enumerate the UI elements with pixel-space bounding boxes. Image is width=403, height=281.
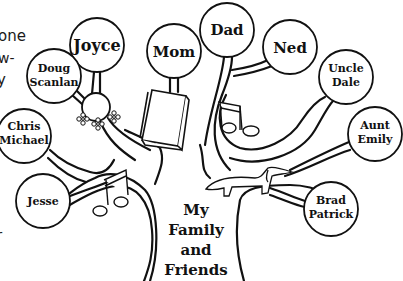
svg-text:Dad: Dad	[210, 21, 244, 39]
svg-text:Dale: Dale	[332, 76, 360, 89]
book-icon	[140, 90, 189, 150]
svg-text:Michael: Michael	[0, 134, 49, 147]
svg-text:My: My	[183, 201, 210, 219]
person-node-mom: Mom	[147, 24, 201, 78]
svg-text:Uncle: Uncle	[328, 62, 363, 75]
svg-text:Jesse: Jesse	[26, 195, 59, 208]
svg-text:Doug: Doug	[38, 62, 71, 75]
person-node-brad-patrick: Brad Patrick	[304, 182, 358, 236]
svg-text:Emily: Emily	[358, 133, 393, 146]
person-node-ned: Ned	[263, 20, 317, 74]
svg-text:Brad: Brad	[316, 194, 346, 207]
person-node-jesse: Jesse	[16, 174, 70, 228]
person-node-chris-michael: Chris Michael	[0, 109, 51, 163]
svg-text:Mom: Mom	[153, 43, 196, 61]
person-node-aunt-emily: Aunt Emily	[348, 107, 402, 161]
svg-text:Chris: Chris	[8, 120, 41, 133]
music-note-icon	[218, 102, 259, 136]
person-node-uncle-dale: Uncle Dale	[319, 50, 373, 104]
svg-text:Friends: Friends	[164, 261, 227, 279]
svg-text:Joyce: Joyce	[71, 36, 120, 55]
svg-text:Patrick: Patrick	[309, 208, 354, 221]
svg-text:Family: Family	[168, 221, 225, 239]
family-tree-illustration: Joyce Doug Scanlan Mom Dad Ned Uncle Dal…	[0, 0, 403, 281]
svg-text:and: and	[180, 241, 212, 259]
person-node-dad: Dad	[200, 3, 254, 57]
svg-text:Scanlan: Scanlan	[29, 76, 78, 89]
svg-text:Aunt: Aunt	[359, 119, 391, 132]
person-node-doug-scanlan: Doug Scanlan	[27, 49, 81, 103]
tree-title: My Family and Friends	[164, 201, 227, 279]
svg-text:Ned: Ned	[273, 39, 307, 57]
